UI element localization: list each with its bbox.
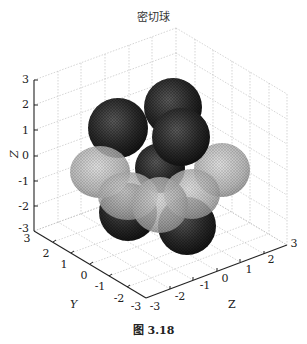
svg-text:-3: -3 [150, 300, 161, 313]
svg-text:-2: -2 [175, 290, 186, 303]
svg-text:2: 2 [268, 253, 275, 266]
svg-text:2: 2 [22, 98, 29, 111]
svg-text:1: 1 [61, 258, 68, 271]
svg-text:-1: -1 [200, 279, 211, 292]
x-axis-label: Z [228, 298, 236, 311]
chart-title: 密切球 [0, 8, 307, 24]
plot-area: 3 2 1 0 -1 -2 -3 Z 3 2 1 0 -1 -2 -3 Y -3… [0, 0, 307, 344]
svg-text:3: 3 [24, 232, 31, 245]
svg-text:3: 3 [22, 73, 29, 86]
svg-text:0: 0 [22, 149, 29, 162]
x-axis-line [146, 245, 287, 298]
svg-text:1: 1 [246, 263, 253, 276]
svg-text:-2: -2 [114, 292, 125, 305]
figure-caption: 图 3.18 [0, 321, 307, 337]
y-axis-label: Y [70, 298, 79, 311]
svg-text:-2: -2 [18, 200, 29, 213]
svg-text:3: 3 [291, 237, 298, 250]
spheres [70, 78, 250, 255]
svg-text:0: 0 [222, 272, 229, 285]
svg-text:1: 1 [22, 124, 29, 137]
svg-text:0: 0 [81, 269, 88, 282]
svg-text:-3: -3 [131, 300, 142, 313]
figure: 密切球 [0, 0, 307, 344]
z-axis-label: Z [8, 150, 21, 159]
svg-text:-1: -1 [18, 175, 29, 188]
y-tick-labels: 3 2 1 0 -1 -2 -3 [24, 232, 142, 313]
svg-text:-1: -1 [95, 280, 106, 293]
svg-text:2: 2 [43, 247, 50, 260]
